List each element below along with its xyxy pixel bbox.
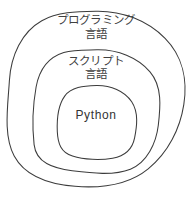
inner-circle-outline (57, 86, 136, 160)
inner-set-label: Python (0, 109, 192, 122)
diagram-canvas: プログラミング 言語 スクリプト 言語 Python (0, 0, 192, 199)
middle-set-label-line2: 言語 (0, 68, 192, 80)
middle-set-label-line1: スクリプト (0, 55, 192, 67)
outer-set-label-line1: プログラミング (0, 14, 192, 26)
outer-set-label-line2: 言語 (0, 28, 192, 40)
